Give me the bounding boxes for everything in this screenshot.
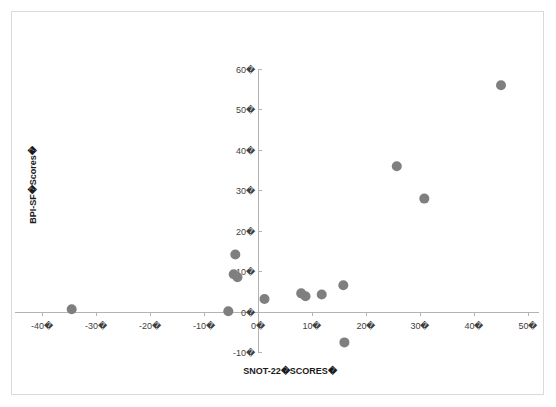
data-point xyxy=(339,337,349,347)
data-point xyxy=(232,272,242,282)
y-tick-label: 50� xyxy=(236,104,256,115)
x-tick-label: 50� xyxy=(518,320,538,331)
x-tick-label: 40� xyxy=(464,320,484,331)
data-point xyxy=(392,161,402,171)
data-point xyxy=(419,194,429,204)
x-tick-label: -40� xyxy=(31,320,54,331)
x-tick-label: -30� xyxy=(85,320,108,331)
x-tick-label: 30� xyxy=(410,320,430,331)
axes-group xyxy=(15,69,539,353)
y-tick-label: 0� xyxy=(241,307,256,318)
data-point xyxy=(259,294,269,304)
x-tick-label: -20� xyxy=(139,320,162,331)
y-tick-label: 60� xyxy=(236,64,256,75)
y-tick-label: -10� xyxy=(233,347,256,358)
x-axis-title: SNOT-22�SCORES� xyxy=(243,365,338,376)
data-point xyxy=(301,291,311,301)
y-axis-title: BPI-SF�Scores� xyxy=(27,145,38,224)
data-point xyxy=(317,290,327,300)
data-point xyxy=(496,80,506,90)
data-point xyxy=(338,280,348,290)
y-tick-label: 40� xyxy=(236,145,256,156)
data-point xyxy=(223,306,233,316)
x-tick-label: 0� xyxy=(251,320,266,331)
y-tick-label: 20� xyxy=(236,226,256,237)
x-tick-label: 20� xyxy=(356,320,376,331)
scatter-plot-svg: -40�-30�-20�-10�0�10�20�30�40�50� -10�0�… xyxy=(0,0,556,407)
data-point xyxy=(230,249,240,259)
x-axis-ticks: -40�-30�-20�-10�0�10�20�30�40�50� xyxy=(31,312,539,331)
data-points-group xyxy=(67,80,506,347)
x-tick-label: -10� xyxy=(193,320,216,331)
x-tick-label: 10� xyxy=(302,320,322,331)
y-tick-label: 30� xyxy=(236,185,256,196)
scatter-plot: -40�-30�-20�-10�0�10�20�30�40�50� -10�0�… xyxy=(0,0,556,407)
data-point xyxy=(67,304,77,314)
